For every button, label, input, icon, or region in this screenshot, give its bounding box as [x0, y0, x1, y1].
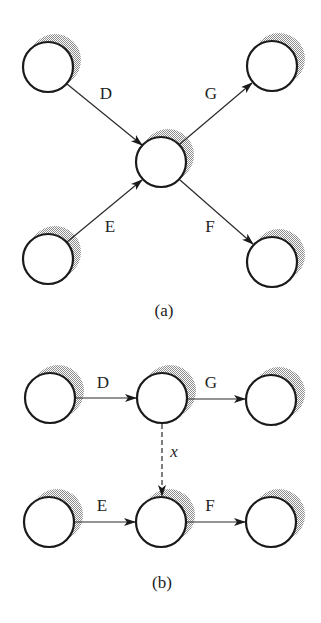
- edge-label-D: D: [100, 84, 112, 103]
- panel-b: D G x E F (b): [24, 365, 305, 592]
- edge-label-E: E: [97, 496, 107, 515]
- edge-F: [180, 180, 253, 244]
- edge-label-D: D: [97, 373, 109, 392]
- node-b-bottom-left: [24, 497, 74, 547]
- node-a-center: [136, 137, 186, 187]
- node-b-top-middle: [137, 373, 187, 423]
- edge-label-G: G: [205, 373, 217, 392]
- node-b-bottom-right: [246, 497, 296, 547]
- node-b-bottom-middle: [136, 497, 186, 547]
- node-a-bottom-right: [247, 237, 297, 287]
- edge-label-F: F: [205, 217, 214, 236]
- edge-label-E: E: [105, 217, 115, 236]
- caption-a: (a): [155, 301, 174, 320]
- edge-label-x: x: [169, 442, 178, 461]
- network-diagram: D G E F (a) D G x E F (b): [0, 0, 321, 623]
- panel-a: D G E F (a): [23, 33, 305, 320]
- node-b-top-right: [246, 375, 296, 425]
- node-b-top-left: [25, 373, 75, 423]
- node-a-top-left: [23, 42, 73, 92]
- caption-b: (b): [152, 573, 172, 592]
- edge-label-F: F: [205, 496, 214, 515]
- edge-label-G: G: [205, 84, 217, 103]
- node-a-bottom-left: [23, 234, 73, 284]
- node-a-top-right: [247, 41, 297, 91]
